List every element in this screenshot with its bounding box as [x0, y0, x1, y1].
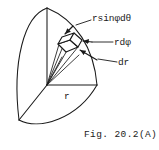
label-radial-element: dr [118, 58, 129, 68]
origin-to-bottom-left-line [19, 85, 47, 120]
leader-lines [76, 20, 117, 62]
figure-container: rsinφdθ rdφ dr r Fig. 20.2(A) [0, 0, 159, 150]
label-polar-element: rdφ [114, 38, 131, 48]
figure-caption: Fig. 20.2(A) [84, 130, 157, 140]
sphere-octant-diagram [0, 0, 159, 150]
leader-line-arc-element [76, 20, 91, 25]
ray-line-4 [47, 47, 78, 85]
leader-line-radial-element [98, 59, 117, 62]
arrow-radial-element [80, 50, 97, 60]
label-arc-element: rsinφdθ [92, 14, 131, 24]
label-radius: r [64, 92, 70, 102]
arrow-arc-element [65, 26, 73, 34]
ray-line-2 [47, 44, 64, 85]
equator-arc [19, 85, 97, 124]
ray-line-5 [47, 57, 62, 85]
